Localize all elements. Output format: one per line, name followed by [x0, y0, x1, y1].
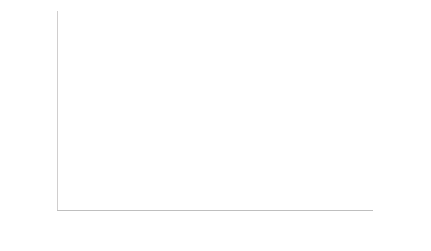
plot-area	[57, 11, 373, 211]
figure-caption	[6, 243, 426, 251]
bar-chart	[0, 0, 431, 251]
x-axis-line	[57, 210, 373, 211]
y-axis-line	[57, 11, 58, 211]
